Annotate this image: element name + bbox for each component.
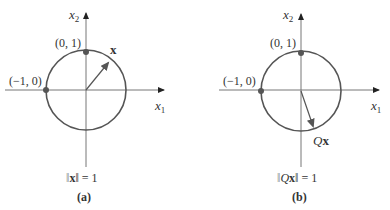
caption-b: (b) <box>292 190 307 204</box>
vector-label: Qx <box>313 133 329 148</box>
point-top-label: (0, 1) <box>270 36 296 50</box>
point-top <box>298 50 304 56</box>
x1-axis-label: x1 <box>370 98 381 115</box>
norm-equation: ‖Qx‖ = 1 <box>277 171 317 185</box>
point-left-label: (−1, 0) <box>9 74 42 88</box>
point-left-label: (−1, 0) <box>223 74 256 88</box>
x1-axis-label: x1 <box>154 98 165 115</box>
point-top <box>83 49 89 55</box>
unit-circle-figure: x2 x1 (0, 1) (−1, 0) x ‖x‖ = 1 (a) x2 x1… <box>0 0 390 210</box>
caption-a: (a) <box>77 190 91 204</box>
panel-b: x2 x1 (0, 1) (−1, 0) Qx ‖Qx‖ = 1 (b) <box>219 7 381 204</box>
vector-Qx <box>301 91 313 126</box>
vector-label: x <box>110 42 117 57</box>
vector-x <box>86 63 108 90</box>
panel-a: x2 x1 (0, 1) (−1, 0) x ‖x‖ = 1 (a) <box>5 7 165 204</box>
x2-axis-label: x2 <box>282 7 293 24</box>
norm-equation: ‖x‖ = 1 <box>66 171 98 185</box>
point-top-label: (0, 1) <box>55 36 81 50</box>
point-left <box>43 87 49 93</box>
x2-axis-label: x2 <box>68 7 79 24</box>
point-left <box>258 88 264 94</box>
